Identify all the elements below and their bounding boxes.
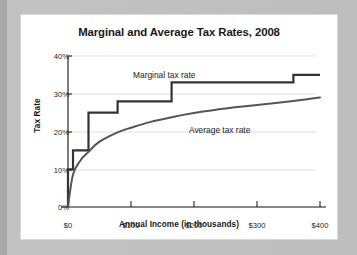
series-average-tax-rate: [68, 98, 320, 208]
x-axis-title: Annual Income (in thousands): [21, 220, 337, 229]
chart-card: Marginal and Average Tax Rates, 2008 Tax…: [21, 15, 337, 239]
annotation-average-tax-rate: Average tax rate: [189, 125, 250, 135]
page-left-margin-strip: [0, 0, 7, 255]
plot-svg: [21, 15, 337, 239]
plot-area: Tax Rate 40% 30% 20% 10% 0%: [21, 15, 337, 239]
series-marginal-tax-rate: [68, 75, 320, 207]
annotation-marginal-tax-rate: Marginal tax rate: [133, 70, 195, 80]
